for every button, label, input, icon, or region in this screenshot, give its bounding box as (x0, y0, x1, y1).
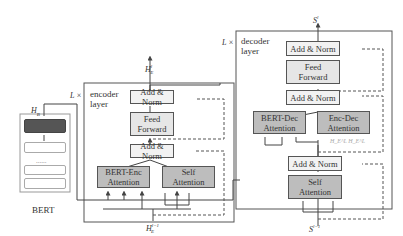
decoder-enc-dec-attention: Enc-DecAttention (317, 111, 370, 134)
decoder-input-label: Sl−1 (309, 222, 320, 235)
encoder-bert-enc-attention: BERT-EncAttention (97, 166, 150, 188)
decoder-self-attention: SelfAttention (288, 175, 342, 199)
encoder-output-label: HlE (145, 62, 153, 78)
decoder-add-norm-bottom: Add & Norm (288, 156, 342, 171)
decoder-output-label: Sl (313, 13, 318, 26)
bert-layer (24, 178, 66, 189)
decoder-feed-forward: FeedForward (286, 60, 340, 84)
decoder-layer-label: decoder layer (241, 36, 269, 56)
bert-output-label: HB (31, 106, 40, 120)
encoder-repeat-label: L × (70, 91, 82, 101)
bert-layer (24, 142, 66, 153)
bert-layer-top (24, 119, 66, 133)
encoder-feed-forward: FeedForward (130, 112, 174, 136)
encoder-add-norm-top: Add & Norm (130, 90, 174, 104)
encoder-self-attention: SelfAttention (162, 166, 215, 188)
decoder-add-norm-top: Add & Norm (286, 41, 340, 56)
encoder-add-norm-mid: Add & Norm (130, 144, 174, 158)
decoder-bert-dec-attention: BERT-DecAttention (253, 111, 306, 134)
encoder-layer-label: encoder layer (90, 89, 118, 109)
enc-dec-inputs-label: H_E^L H_E^L (330, 136, 365, 146)
bert-layer (24, 165, 66, 175)
decoder-add-norm-mid: Add & Norm (286, 90, 340, 105)
decoder-repeat-label: L × (222, 38, 234, 48)
bert-label: BERT (32, 205, 54, 215)
encoder-input-label: Hl−1E (146, 221, 154, 236)
